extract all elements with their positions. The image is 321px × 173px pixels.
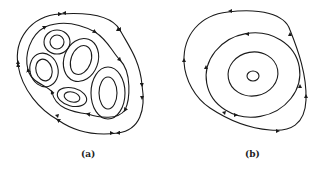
diagram-canvas	[0, 0, 321, 173]
panel-a-cell-1-inner	[50, 35, 64, 49]
panel-a-cell-2-outer	[26, 50, 62, 90]
panel-b-outer-orbit	[184, 11, 306, 131]
panel-a-envelope-orbit	[27, 23, 129, 117]
panel-b-middle-orbit	[199, 25, 306, 124]
panel-a-cell-4-inner	[63, 90, 81, 104]
panel-a-label: (a)	[81, 149, 95, 159]
panel-a-cell-3-outer	[58, 34, 105, 87]
panel-a-cell-3-inner	[66, 42, 95, 77]
panel-b-center-orbit	[247, 71, 259, 81]
panel-b-label: (b)	[245, 149, 260, 159]
panel-a-streamlines	[17, 14, 143, 134]
panel-b-streamlines	[184, 11, 307, 131]
panel-a-cell-5-outer	[91, 67, 125, 119]
panel-a-cell-2-inner	[33, 57, 54, 82]
panel-b-inner-orbit	[225, 48, 282, 100]
panel-a-cell-5-inner	[99, 77, 117, 109]
